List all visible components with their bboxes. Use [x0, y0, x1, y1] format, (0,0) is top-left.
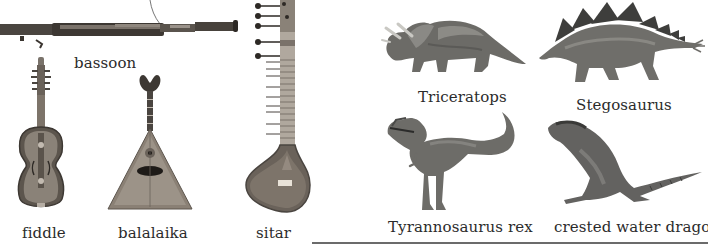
stegosaurus-icon — [535, 0, 705, 85]
balalaika-label: balalaika — [118, 224, 188, 242]
balalaika-icon — [108, 75, 198, 215]
stegosaurus-label: Stegosaurus — [576, 96, 672, 114]
triceratops-label: Triceratops — [418, 88, 507, 106]
sitar-label: sitar — [256, 224, 291, 242]
sitar-icon — [240, 0, 310, 215]
fiddle-label: fiddle — [22, 224, 66, 242]
water-dragon-label: crested water dragon — [554, 218, 708, 236]
bassoon-label: bassoon — [74, 54, 136, 72]
fiddle-icon — [10, 57, 70, 217]
water-dragon-icon — [546, 120, 706, 210]
bottom-rule — [312, 242, 708, 244]
tyrannosaurus-label: Tyrannosaurus rex — [388, 218, 533, 236]
tyrannosaurus-icon — [384, 110, 524, 220]
triceratops-icon — [378, 14, 528, 76]
bassoon-icon — [0, 0, 240, 50]
